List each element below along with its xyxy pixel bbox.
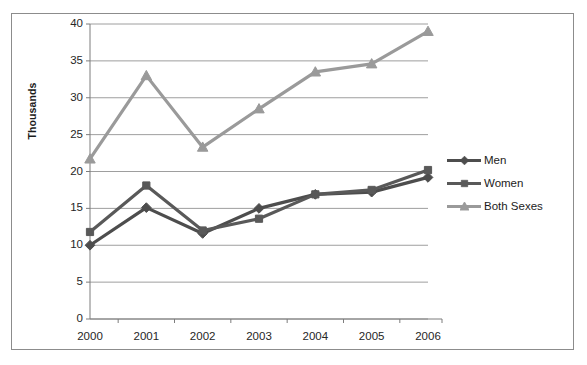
- legend-swatch: [447, 199, 481, 213]
- legend-label: Women: [484, 177, 523, 189]
- data-point: [424, 166, 431, 173]
- data-point: [255, 215, 262, 222]
- data-point: [368, 186, 375, 193]
- legend-item-men[interactable]: Men: [447, 148, 567, 171]
- legend-item-women[interactable]: Women: [447, 171, 567, 194]
- data-point: [199, 227, 206, 234]
- data-point: [423, 26, 433, 35]
- data-point: [254, 204, 264, 214]
- data-point: [143, 182, 150, 189]
- series-both-sexes: [85, 26, 433, 163]
- legend-label: Both Sexes: [484, 200, 543, 212]
- legend-marker-diamond-icon: [460, 156, 469, 165]
- series-men: [85, 173, 433, 251]
- legend-marker-square-icon: [460, 179, 469, 188]
- legend-item-both-sexes[interactable]: Both Sexes: [447, 194, 567, 217]
- data-series-layer: [85, 26, 433, 250]
- chart-legend: MenWomenBoth Sexes: [447, 148, 567, 217]
- line-chart: Thousands 4035302520151050 2000200120022…: [0, 0, 587, 365]
- legend-swatch: [447, 176, 481, 190]
- data-point: [312, 191, 319, 198]
- series-women: [86, 166, 431, 235]
- legend-marker-triangle-icon: [460, 202, 469, 211]
- data-point: [86, 228, 93, 235]
- series-line: [90, 31, 428, 159]
- legend-label: Men: [484, 154, 506, 166]
- data-point: [141, 70, 151, 79]
- legend-swatch: [447, 153, 481, 167]
- axis-lines: [86, 24, 442, 323]
